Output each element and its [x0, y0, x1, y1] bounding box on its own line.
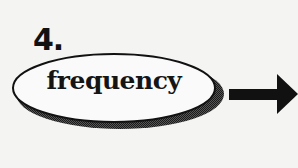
- node-label: frequency: [14, 66, 214, 95]
- arrow-right-icon: [229, 74, 298, 114]
